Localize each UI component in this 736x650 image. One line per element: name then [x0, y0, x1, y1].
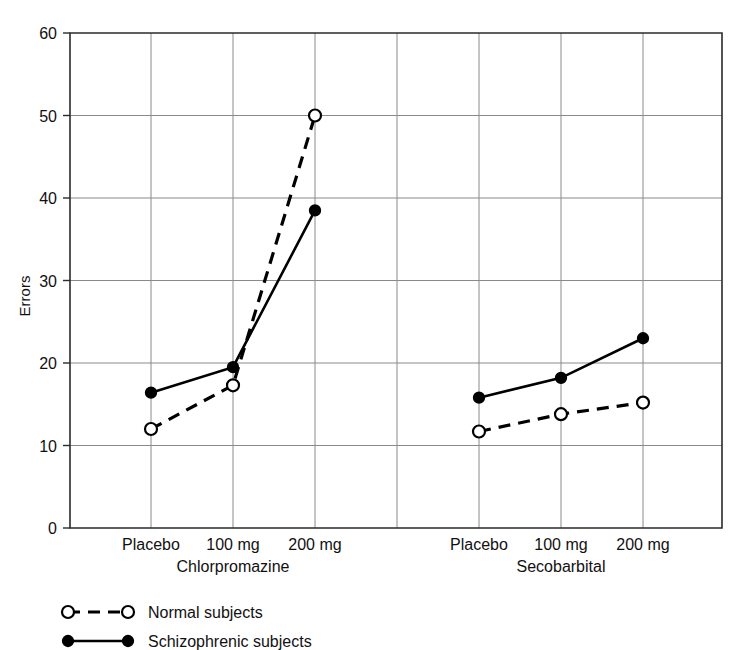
legend-marker-1-1 [123, 636, 134, 647]
legend-marker-0-0 [62, 606, 74, 618]
data-point-0-3 [473, 425, 485, 437]
data-point-1-4 [556, 372, 567, 383]
legend-label-0: Normal subjects [148, 604, 263, 621]
x-category-label-5: 200 mg [616, 536, 669, 553]
y-tick-label-60: 60 [39, 25, 57, 42]
data-point-0-0 [145, 423, 157, 435]
data-point-1-0 [146, 387, 157, 398]
y-tick-label-0: 0 [48, 520, 57, 537]
errors-line-chart: 0102030405060 Errors Placebo100 mg200 mg… [0, 0, 736, 650]
data-point-1-3 [474, 392, 485, 403]
legend-marker-1-0 [63, 636, 74, 647]
x-group-label-0: Chlorpromazine [177, 558, 290, 575]
x-category-label-2: 200 mg [288, 536, 341, 553]
data-point-0-4 [555, 408, 567, 420]
legend-marker-0-1 [122, 606, 134, 618]
data-point-1-2 [310, 205, 321, 216]
x-category-label-0: Placebo [122, 536, 180, 553]
legend-label-1: Schizophrenic subjects [148, 633, 312, 650]
y-tick-label-10: 10 [39, 438, 57, 455]
data-point-0-5 [637, 397, 649, 409]
y-tick-label-20: 20 [39, 355, 57, 372]
data-point-0-2 [309, 110, 321, 122]
data-point-1-5 [638, 333, 649, 344]
x-category-label-3: Placebo [450, 536, 508, 553]
y-tick-label-40: 40 [39, 190, 57, 207]
x-category-label-4: 100 mg [534, 536, 587, 553]
y-tick-label-30: 30 [39, 273, 57, 290]
y-axis-title: Errors [16, 276, 33, 317]
data-point-1-1 [228, 362, 239, 373]
x-group-label-1: Secobarbital [517, 558, 606, 575]
y-tick-label-50: 50 [39, 108, 57, 125]
data-point-0-1 [227, 379, 239, 391]
x-category-label-1: 100 mg [206, 536, 259, 553]
